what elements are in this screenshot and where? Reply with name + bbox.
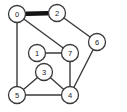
node-circle-4[interactable] (62, 87, 79, 104)
graph-node-5[interactable]: 5 (9, 87, 26, 104)
graph-node-2[interactable]: 2 (49, 5, 66, 22)
graph-node-1[interactable]: 1 (29, 45, 46, 62)
graph-node-7[interactable]: 7 (62, 45, 79, 62)
node-circle-6[interactable] (89, 34, 106, 51)
node-circle-3[interactable] (36, 64, 53, 81)
graph-node-3[interactable]: 3 (36, 64, 53, 81)
node-circle-5[interactable] (9, 87, 26, 104)
graph-node-6[interactable]: 6 (89, 34, 106, 51)
graph-diagram: 01234567 (0, 0, 127, 112)
graph-node-0[interactable]: 0 (9, 6, 26, 23)
node-circle-7[interactable] (62, 45, 79, 62)
graph-node-4[interactable]: 4 (62, 87, 79, 104)
node-circle-1[interactable] (29, 45, 46, 62)
graph-canvas: 01234567 (0, 0, 127, 112)
node-circle-0[interactable] (9, 6, 26, 23)
node-circle-2[interactable] (49, 5, 66, 22)
